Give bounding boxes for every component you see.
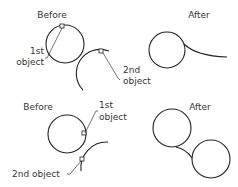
leader-line — [103, 53, 120, 80]
panel-bottom-after: After — [153, 102, 230, 178]
leader-line — [67, 161, 81, 174]
fillet-arc — [176, 147, 192, 158]
first-object-label: object — [16, 57, 44, 67]
first-object-circle — [46, 25, 84, 63]
fillet-diagram: Before 1st object 2nd object After Befor… — [0, 0, 238, 187]
panel-title: Before — [37, 10, 67, 20]
first-object-label: object — [99, 112, 127, 122]
fillet-result-circle — [149, 32, 185, 68]
panel-title: After — [188, 10, 210, 20]
second-object-label: 2nd object — [12, 169, 60, 179]
second-object-label: 2nd — [123, 65, 140, 75]
fillet-result-arc — [184, 44, 227, 57]
second-result-circle — [192, 140, 230, 178]
second-object-label: object — [123, 76, 151, 86]
pick-box-icon — [80, 157, 84, 161]
second-object-arc — [81, 142, 108, 171]
leader-line — [85, 111, 98, 133]
panel-title: After — [189, 102, 211, 112]
panel-bottom-before: Before 1st object 2nd object — [12, 100, 127, 179]
leader-line — [45, 28, 62, 58]
first-result-circle — [153, 109, 191, 147]
panel-title: Before — [23, 102, 53, 112]
first-object-label: 1st — [99, 100, 113, 110]
pick-box-icon — [99, 49, 103, 53]
panel-top-after: After — [149, 10, 227, 68]
panel-top-before: Before 1st object 2nd object — [16, 10, 151, 90]
first-object-circle — [48, 115, 86, 153]
first-object-label: 1st — [30, 46, 44, 56]
pick-box-icon — [60, 24, 64, 28]
